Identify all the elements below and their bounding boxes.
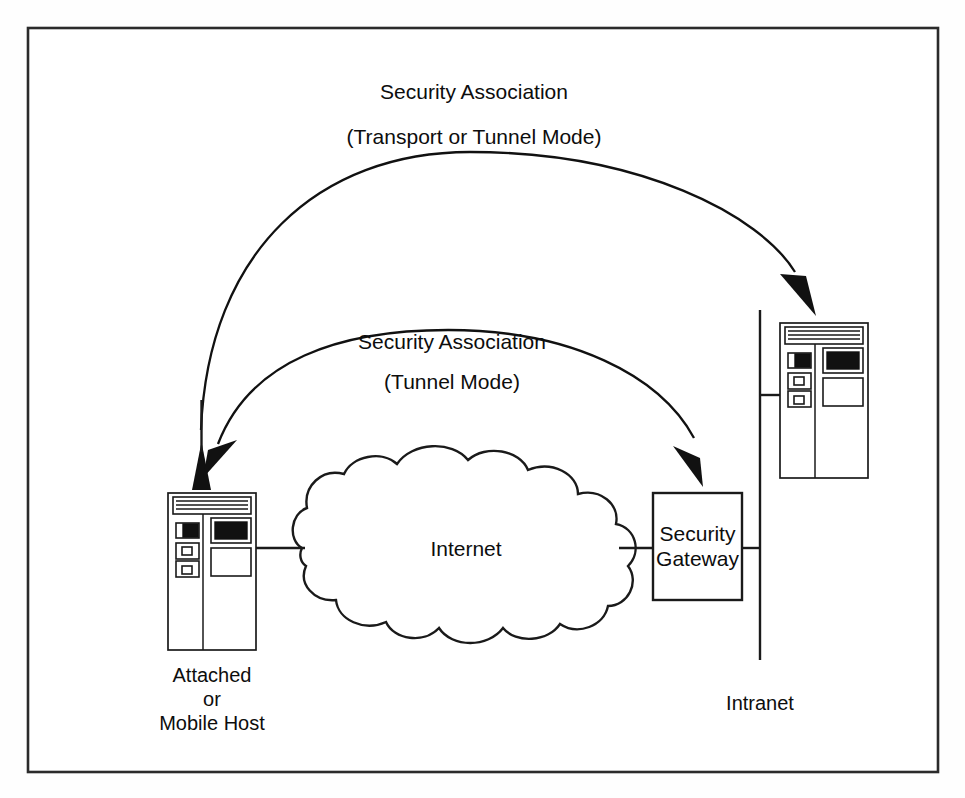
host-left-icon	[168, 493, 256, 650]
host-right-drive-slot-2	[794, 396, 804, 404]
host-left-drive-slot-1	[182, 547, 192, 555]
network-diagram: Security Association (Transport or Tunne…	[0, 0, 965, 798]
label-host-left-line3: Mobile Host	[159, 712, 265, 734]
host-left-drive-slot-2	[182, 566, 192, 574]
diagram-canvas: Security Association (Transport or Tunne…	[0, 0, 965, 798]
host-right-screen	[827, 352, 859, 369]
security-gateway-node: Security Gateway	[653, 493, 742, 600]
label-security-gateway-line2: Gateway	[656, 547, 739, 570]
label-intranet: Intranet	[726, 692, 794, 714]
host-left-indicator-lit	[183, 524, 198, 537]
label-security-gateway-line1: Security	[660, 522, 736, 545]
label-lower-association-line1: Security Association	[358, 330, 546, 353]
host-left-blank-panel	[211, 548, 251, 576]
label-host-left-line1: Attached	[173, 664, 252, 686]
host-right-drive-slot-1	[794, 377, 804, 385]
host-left-screen	[215, 522, 247, 539]
host-right-indicator-lit	[795, 354, 810, 367]
label-upper-association-line2: (Transport or Tunnel Mode)	[347, 125, 602, 148]
label-lower-association-line2: (Tunnel Mode)	[384, 370, 520, 393]
host-right-icon	[780, 323, 868, 478]
label-internet: Internet	[430, 537, 501, 560]
label-host-left-line2: or	[203, 688, 221, 710]
label-upper-association-line1: Security Association	[380, 80, 568, 103]
host-right-blank-panel	[823, 378, 863, 406]
